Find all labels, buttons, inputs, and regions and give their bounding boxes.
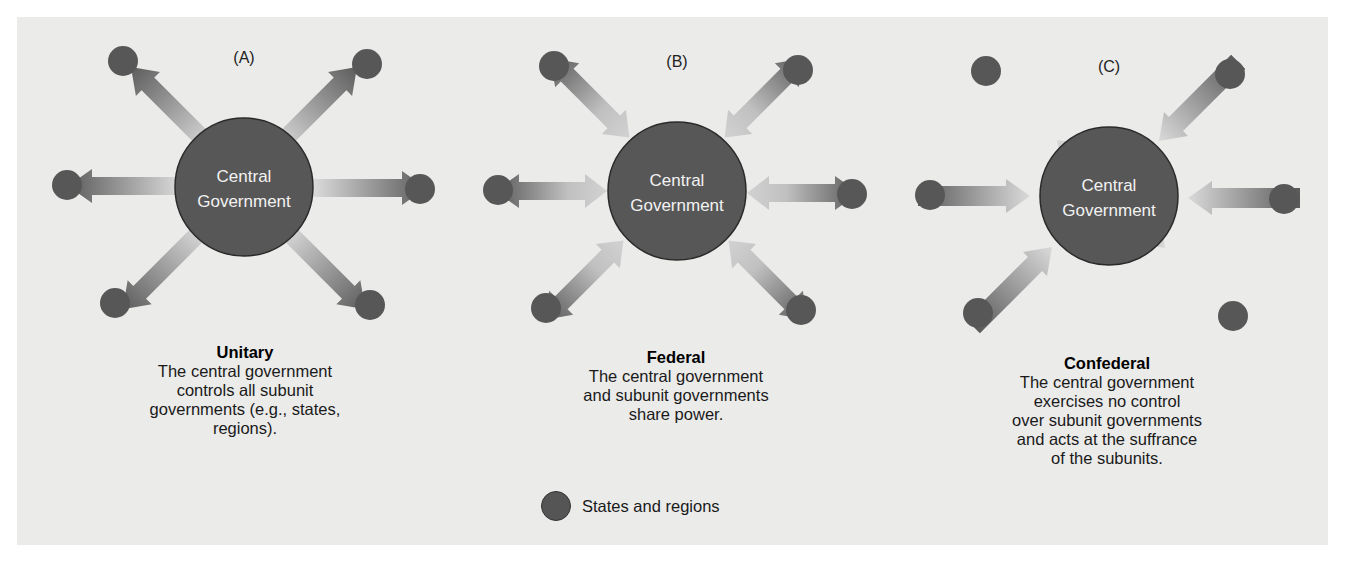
caption-confederal: Confederal The central government exerci…: [982, 354, 1232, 468]
caption-description: The central government and subunit gover…: [551, 367, 801, 424]
central-government-label: Government: [630, 196, 724, 215]
legend-label: States and regions: [582, 497, 720, 516]
central-government-label: Government: [197, 192, 291, 211]
caption-title: Federal: [551, 348, 801, 367]
central-government-label: Central: [1082, 176, 1137, 195]
diagram-letter-a: (A): [233, 49, 254, 66]
legend: States and regions: [541, 491, 720, 521]
central-government-label: Government: [1062, 201, 1156, 220]
central-government-node: [608, 122, 746, 260]
diagram-federal: (B) Central Government: [483, 46, 867, 332]
diagram-unitary: (A) Central Government: [52, 46, 435, 321]
caption-title: Unitary: [120, 343, 370, 362]
caption-federal: Federal The central government and subun…: [551, 348, 801, 424]
central-government-label: Central: [650, 171, 705, 190]
caption-description: The central government exercises no cont…: [982, 373, 1232, 468]
central-government-node: [1040, 127, 1178, 265]
caption-description: The central government controls all subu…: [120, 362, 370, 438]
government-systems-diagram: (A) Central Government (B): [0, 0, 1352, 569]
diagram-letter-c: (C): [1098, 58, 1120, 75]
caption-title: Confederal: [982, 354, 1232, 373]
states-regions-circle-icon: [541, 491, 571, 521]
diagram-confederal: (C) Central Government: [915, 50, 1300, 338]
central-government-label: Central: [217, 167, 272, 186]
diagram-letter-b: (B): [666, 53, 687, 70]
caption-unitary: Unitary The central government controls …: [120, 343, 370, 438]
central-government-node: [175, 118, 313, 256]
